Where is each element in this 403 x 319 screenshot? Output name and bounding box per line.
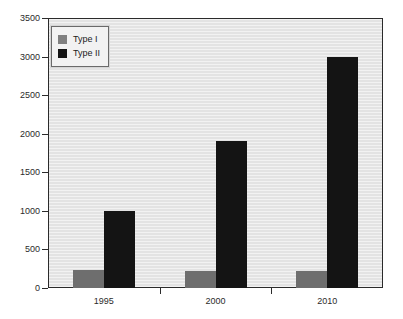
- legend-swatch-type-2-icon: [58, 49, 67, 58]
- y-axis-tick-mark: [42, 18, 48, 19]
- y-axis-tick-mark: [42, 211, 48, 212]
- bar-2010-type-1: [296, 271, 327, 288]
- x-axis-tick-label: 1995: [94, 296, 114, 306]
- y-axis-tick-mark: [42, 288, 48, 289]
- y-axis-tick-label: 2000: [20, 127, 40, 141]
- bar-chart: 0500100015002000250030003500 19952000201…: [0, 0, 403, 319]
- y-axis-tick-label: 3500: [20, 11, 40, 25]
- y-axis-tick-mark: [42, 172, 48, 173]
- legend-item-type-1: Type I: [58, 33, 100, 46]
- bar-1995-type-1: [73, 270, 104, 288]
- x-axis-tick-label: 2010: [317, 296, 337, 306]
- legend-swatch-type-1-icon: [58, 35, 67, 44]
- y-axis-tick-label: 1000: [20, 204, 40, 218]
- y-axis-tick-mark: [42, 57, 48, 58]
- y-axis-tick-label: 0: [35, 281, 40, 295]
- y-axis-tick-label: 500: [25, 242, 40, 256]
- legend-label-type-2: Type II: [73, 48, 100, 59]
- bar-2000-type-1: [185, 271, 216, 288]
- legend-label-type-1: Type I: [73, 34, 98, 45]
- x-axis-tick-mark: [271, 288, 272, 294]
- y-axis-tick-mark: [42, 134, 48, 135]
- y-axis-tick-label: 1500: [20, 165, 40, 179]
- bar-2000-type-2: [216, 141, 247, 288]
- x-axis-tick-label: 2000: [205, 296, 225, 306]
- bar-1995-type-2: [104, 211, 135, 288]
- y-axis-tick-mark: [42, 95, 48, 96]
- legend-item-type-2: Type II: [58, 47, 100, 60]
- chart-legend: Type I Type II: [51, 26, 109, 67]
- y-axis-tick-label: 2500: [20, 88, 40, 102]
- bar-2010-type-2: [327, 57, 358, 288]
- y-axis-tick-mark: [42, 249, 48, 250]
- x-axis-tick-mark: [160, 288, 161, 294]
- y-axis-tick-label: 3000: [20, 50, 40, 64]
